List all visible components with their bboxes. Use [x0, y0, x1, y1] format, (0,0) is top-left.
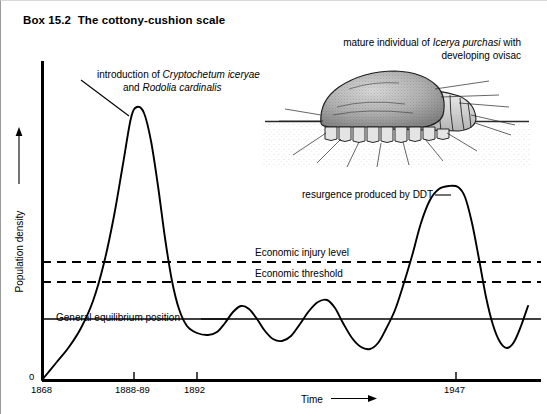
insect-body	[321, 71, 444, 127]
economic-threshold-label: Economic threshold	[255, 268, 343, 281]
economic-injury-level-label: Economic injury level	[255, 247, 349, 260]
y-axis-arrow-icon	[16, 127, 23, 184]
x-axis-arrow-icon	[331, 395, 377, 402]
y-axis-label: Population density	[14, 182, 25, 322]
mature-individual-line2: developing ovisac	[442, 50, 522, 61]
ddt-resurgence-annotation: resurgence produced by DDT	[302, 189, 433, 202]
x-tick-label-1868: 1868	[31, 384, 52, 395]
mature-individual-annotation: mature individual of Icerya purchasi wit…	[271, 37, 521, 62]
x-axis-ticks	[134, 372, 456, 379]
marginal-fringe	[325, 127, 449, 143]
introduction-annotation-line1: introduction of Cryptochetum iceryae	[97, 69, 260, 80]
introduction-annotation: introduction of Cryptochetum iceryaeand …	[97, 69, 260, 94]
x-tick-label-1947: 1947	[444, 384, 465, 395]
x-tick-label-1892: 1892	[184, 384, 205, 395]
icerya-purchasi-illustration	[263, 63, 531, 173]
introduction-annotation-line2: and Rodolia cardinalis	[123, 82, 221, 93]
general-equilibrium-label: General equilibrium position	[56, 312, 180, 325]
figure-box: Box 15.2 The cottony-cushion scale	[0, 0, 547, 414]
x-axis-label: Time	[301, 394, 323, 405]
y-axis-zero-label: 0	[29, 371, 34, 382]
x-tick-label-1888-89: 1888-89	[115, 384, 150, 395]
mature-individual-line1: mature individual of Icerya purchasi wit…	[343, 37, 521, 48]
